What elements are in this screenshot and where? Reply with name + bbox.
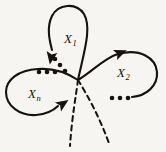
dashed-curve-right	[78, 80, 110, 146]
loop-xn-path	[6, 69, 78, 115]
wedge-of-circles-figure	[0, 0, 166, 152]
dashed-loops	[70, 80, 110, 146]
label-x2: X2	[117, 66, 130, 82]
ellipsis-dot	[63, 69, 68, 74]
dashed-curve-left	[70, 80, 78, 146]
ellipsis-dot	[126, 96, 131, 101]
label-x2-subscript: 2	[125, 72, 130, 82]
ellipsis-dot	[45, 70, 50, 75]
label-x1: X1	[64, 32, 77, 48]
ellipsis-xn-top	[37, 70, 58, 75]
figure-container: X1 X2 Xn	[0, 0, 166, 152]
ellipsis-dot	[110, 96, 115, 101]
label-x1-subscript: 1	[72, 38, 77, 48]
ellipsis-dot	[53, 70, 58, 75]
label-xn: Xn	[28, 87, 41, 103]
label-x1-base: X	[64, 31, 72, 46]
ellipsis-dot	[37, 70, 42, 75]
label-xn-subscript: n	[36, 93, 41, 103]
ellipsis-x2-bottom	[110, 96, 131, 101]
label-x2-base: X	[117, 65, 125, 80]
ellipsis-dot	[53, 57, 58, 62]
ellipsis-dot	[58, 63, 63, 68]
arrowhead-xn-icon	[55, 95, 71, 111]
ellipsis-dot	[118, 96, 123, 101]
label-xn-base: X	[28, 86, 36, 101]
